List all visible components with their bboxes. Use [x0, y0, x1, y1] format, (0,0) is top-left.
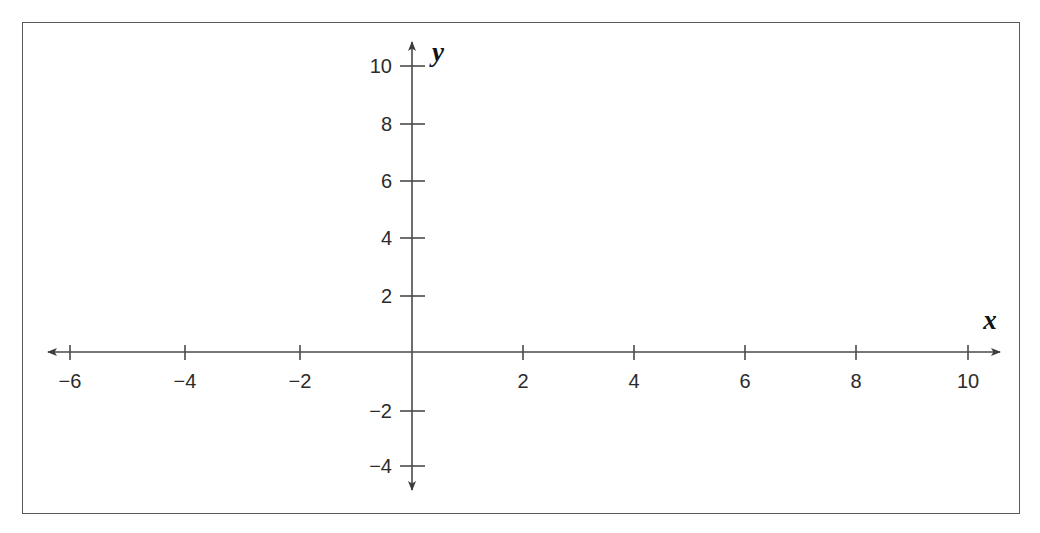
y-axis-label: y	[432, 39, 444, 66]
y-tick-label: 2	[381, 286, 392, 306]
x-tick-label: −2	[289, 371, 312, 391]
x-tick-label: 2	[517, 371, 528, 391]
y-tick-label: −2	[369, 401, 392, 421]
x-tick-label: 4	[628, 371, 639, 391]
y-tick-label: 4	[381, 228, 392, 248]
y-tick-label: 8	[381, 114, 392, 134]
x-tick-label: 8	[850, 371, 861, 391]
x-axis-label: x	[983, 307, 997, 334]
y-tick-label: 6	[381, 171, 392, 191]
x-tick-label: 6	[739, 371, 750, 391]
x-tick-label: 10	[957, 371, 979, 391]
x-tick-label: −4	[174, 371, 197, 391]
y-tick-label: 10	[370, 56, 392, 76]
figure-border	[22, 22, 1020, 514]
x-tick-label: −6	[59, 371, 82, 391]
coordinate-plane-figure: −6 −4 −2 2 4 6 8 10 10 8 6 4 2 −2 −4 x y	[0, 0, 1040, 533]
y-tick-label: −4	[369, 456, 392, 476]
